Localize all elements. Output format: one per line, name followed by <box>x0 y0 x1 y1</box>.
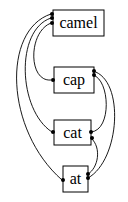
port-dot <box>89 130 93 134</box>
port-dot <box>90 136 94 140</box>
port-dot <box>50 21 54 25</box>
port-dot <box>92 73 96 77</box>
port-dot <box>50 16 54 20</box>
port-dot <box>86 176 90 180</box>
port-dot <box>50 12 54 16</box>
node-label: at <box>70 170 82 187</box>
edge-camel-at <box>17 14 62 180</box>
port-dot <box>86 172 90 176</box>
node-cat: cat <box>54 120 91 145</box>
diagram-canvas: camel cap cat at <box>0 0 128 202</box>
port-dot <box>92 69 96 73</box>
node-camel: camel <box>53 10 104 36</box>
node-label: cap <box>63 71 85 89</box>
port-dot <box>51 78 55 82</box>
port-dot <box>51 130 55 134</box>
node-cap: cap <box>54 67 94 93</box>
edge-camel-cap <box>34 23 51 80</box>
node-at: at <box>63 166 88 192</box>
port-dot <box>61 178 65 182</box>
node-label: camel <box>59 14 98 31</box>
node-label: cat <box>63 124 82 141</box>
